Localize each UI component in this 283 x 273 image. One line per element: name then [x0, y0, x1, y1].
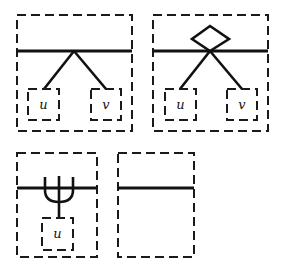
diagram-canvas: u v u v u: [0, 0, 283, 273]
panel-2: u v: [153, 15, 268, 131]
panel-4-frame: [118, 153, 194, 257]
panel-2-edge-right: [210, 51, 242, 89]
panel-2-node-u: u: [165, 89, 196, 120]
panel-1-node-v: v: [91, 89, 121, 120]
panel-1-node-v-label: v: [102, 97, 110, 112]
panel-3-node-u-label: u: [53, 226, 61, 241]
panel-3: u: [17, 153, 97, 257]
panel-2-node-v: v: [227, 89, 257, 120]
panel-1: u v: [17, 15, 132, 131]
panel-1-node-u: u: [28, 89, 59, 120]
panel-1-edge-left: [44, 51, 74, 89]
panel-2-edge-left: [180, 51, 210, 89]
panel-1-edge-right: [74, 51, 106, 89]
panel-3-frame: [17, 153, 97, 257]
panel-1-frame: [17, 15, 132, 131]
panel-1-node-u-label: u: [39, 97, 47, 112]
panel-4: [118, 153, 194, 257]
panel-2-node-u-label: u: [176, 97, 184, 112]
panel-2-frame: [153, 15, 268, 131]
panel-2-node-v-label: v: [238, 97, 246, 112]
diamond-icon: [192, 26, 229, 51]
panel-3-node-u: u: [42, 218, 73, 250]
